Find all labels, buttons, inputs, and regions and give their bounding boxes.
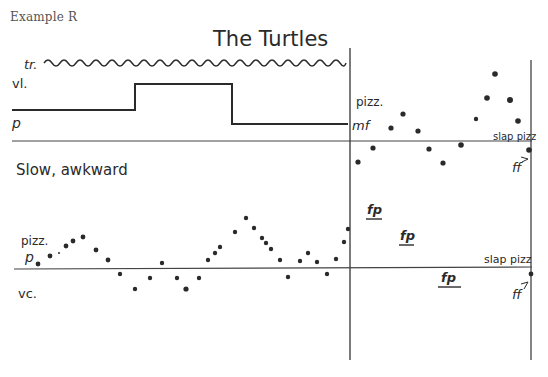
cello-pizz-label: pizz. xyxy=(21,234,48,248)
svg-text:fp: fp xyxy=(400,228,415,243)
svg-text:fp: fp xyxy=(367,202,382,217)
svg-text:fp: fp xyxy=(441,270,456,285)
violin-dynamic-p: p xyxy=(11,115,21,131)
violin-accent-icon xyxy=(521,157,528,162)
violin-dynamic-ff: ff xyxy=(512,160,523,175)
cello-dynamic-p: p xyxy=(24,249,34,265)
cello-slap-note xyxy=(529,272,534,277)
cello-accent-icon xyxy=(521,282,528,289)
cello-pizz-notes xyxy=(36,216,351,292)
cello-slap-pizz-label: slap pizz xyxy=(484,253,532,266)
cello-fp-marking-2: fp xyxy=(399,228,415,245)
violin-label: vl. xyxy=(12,76,27,91)
tempo-marking: Slow, awkward xyxy=(16,161,128,179)
violin-slap-pizz-label: slap pizz xyxy=(493,131,536,142)
cello-fp-marking-1: fp xyxy=(366,202,382,219)
cello-staff-line xyxy=(14,267,532,269)
violin-pizz-notes xyxy=(355,71,531,165)
cello-dynamic-ff: ff xyxy=(512,287,523,302)
violin-pizz-label: pizz. xyxy=(356,95,383,109)
piece-title: The Turtles xyxy=(212,27,328,51)
cello-fp-marking-3: fp xyxy=(438,270,461,287)
violin-pitch-contour xyxy=(12,84,348,124)
trill-label: tr. xyxy=(24,57,37,72)
cello-label: vc. xyxy=(18,286,37,301)
violin-dynamic-mf: mf xyxy=(352,118,372,133)
score: The Turtles tr. vl. p pizz. mf slap pizz… xyxy=(0,0,548,377)
trill-wavy-line xyxy=(44,60,346,66)
